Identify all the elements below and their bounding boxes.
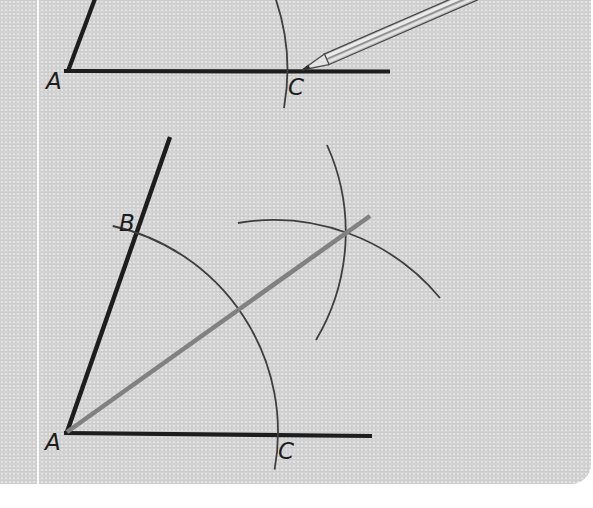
top-compass-arc — [275, 0, 287, 108]
top-ray-upper — [68, 0, 96, 71]
bottom-figure: B A C — [43, 137, 440, 470]
pencil-icon — [300, 0, 477, 75]
top-label-a: A — [44, 68, 62, 94]
bottom-ray-upper — [67, 137, 170, 432]
textbook-page: A C B A C — [0, 0, 593, 508]
geometry-construction-diagram: A C B A C — [0, 0, 593, 508]
pencil-shaft — [324, 0, 477, 65]
bottom-label-a: A — [43, 429, 61, 455]
bottom-ray-horizontal — [64, 433, 372, 436]
top-ray-horizontal — [64, 71, 390, 72]
top-figure: A C — [44, 0, 477, 108]
bottom-label-c: C — [278, 438, 294, 464]
top-label-c: C — [288, 74, 304, 100]
bottom-label-b: B — [119, 210, 135, 236]
